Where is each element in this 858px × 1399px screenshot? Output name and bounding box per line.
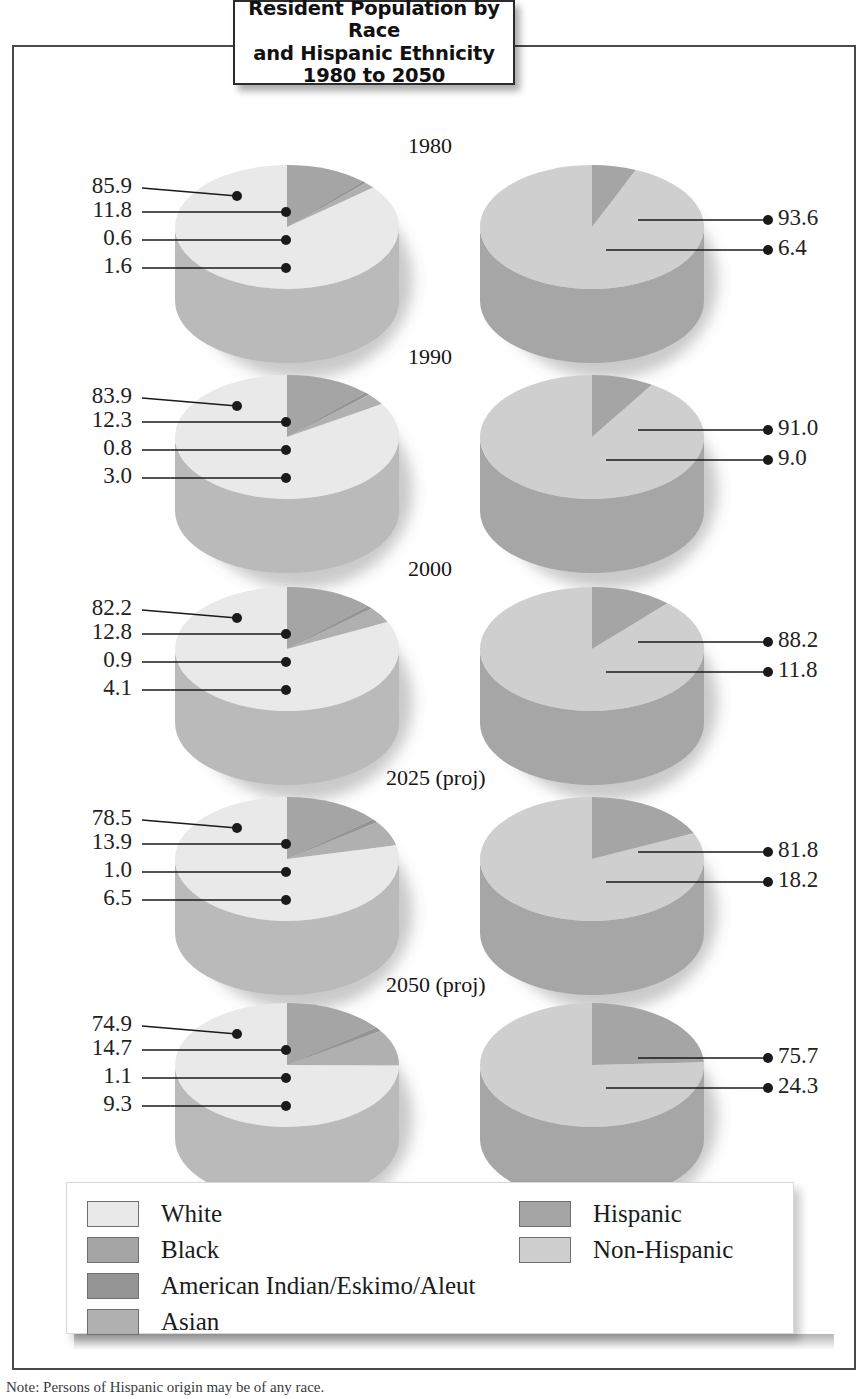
race-leader-1-1 — [138, 182, 247, 204]
legend-item-left-2: Black — [87, 1233, 476, 1267]
ethnicity-leader-2-1 — [634, 424, 778, 438]
race-leader-3-3 — [138, 656, 296, 670]
race-value-label-1-2: 11.8 — [42, 197, 132, 223]
legend-label-left-3: American Indian/Eskimo/Aleut — [161, 1273, 476, 1299]
race-value-label-3-4: 4.1 — [42, 675, 132, 701]
race-leader-2-4 — [138, 472, 296, 486]
ethnicity-value-label-1-1: 93.6 — [778, 205, 818, 231]
race-value-label-5-2: 14.7 — [42, 1035, 132, 1061]
race-leader-2-2 — [138, 416, 296, 430]
legend-column-ethnicity: HispanicNon-Hispanic — [519, 1197, 733, 1269]
legend-swatch-right-1 — [519, 1201, 571, 1227]
race-leader-5-1 — [138, 1020, 247, 1042]
legend-swatch-left-2 — [87, 1237, 139, 1263]
ethnicity-value-label-2-2: 9.0 — [778, 445, 807, 471]
race-value-label-2-1: 83.9 — [42, 383, 132, 409]
legend-item-left-4: Asian — [87, 1305, 476, 1339]
ethnicity-leader-1-1 — [634, 214, 778, 228]
ethnicity-value-label-3-1: 88.2 — [778, 627, 818, 653]
footnote: Note: Persons of Hispanic origin may be … — [6, 1379, 324, 1396]
chart-legend: WhiteBlackAmerican Indian/Eskimo/AleutAs… — [66, 1182, 794, 1334]
race-leader-3-1 — [138, 604, 247, 626]
ethnicity-value-label-3-2: 11.8 — [778, 657, 817, 683]
race-value-label-4-1: 78.5 — [42, 805, 132, 831]
race-value-label-1-3: 0.6 — [42, 225, 132, 251]
ethnicity-value-label-2-1: 91.0 — [778, 415, 818, 441]
chart-title-card: Resident Population by Race and Hispanic… — [233, 0, 515, 85]
race-value-label-3-1: 82.2 — [42, 595, 132, 621]
race-value-label-4-4: 6.5 — [42, 885, 132, 911]
legend-swatch-left-3 — [87, 1273, 139, 1299]
legend-swatch-left-4 — [87, 1309, 139, 1335]
legend-label-left-4: Asian — [161, 1309, 219, 1335]
pie-ethnicity-1 — [460, 150, 724, 378]
legend-label-left-2: Black — [161, 1237, 219, 1263]
ethnicity-leader-3-1 — [634, 636, 778, 650]
legend-label-right-2: Non-Hispanic — [593, 1237, 733, 1263]
legend-item-right-2: Non-Hispanic — [519, 1233, 733, 1267]
year-label-4: 2025 (proj) — [386, 765, 486, 791]
legend-item-left-3: American Indian/Eskimo/Aleut — [87, 1269, 476, 1303]
legend-label-left-1: White — [161, 1201, 222, 1227]
ethnicity-value-label-1-2: 6.4 — [778, 235, 807, 261]
race-leader-4-3 — [138, 866, 296, 880]
race-leader-2-3 — [138, 444, 296, 458]
ethnicity-leader-2-2 — [602, 454, 778, 468]
ethnicity-value-label-4-1: 81.8 — [778, 837, 818, 863]
title-line-3: 1980 to 2050 — [303, 64, 445, 87]
ethnicity-value-label-4-2: 18.2 — [778, 867, 818, 893]
ethnicity-leader-3-2 — [602, 666, 778, 680]
race-value-label-3-3: 0.9 — [42, 647, 132, 673]
year-label-1: 1980 — [408, 133, 452, 159]
ethnicity-leader-4-1 — [634, 846, 778, 860]
race-value-label-3-2: 12.8 — [42, 619, 132, 645]
ethnicity-leader-1-2 — [602, 244, 778, 258]
legend-item-left-1: White — [87, 1197, 476, 1231]
title-line-1: Resident Population by Race — [248, 0, 499, 42]
legend-swatch-right-2 — [519, 1237, 571, 1263]
race-value-label-1-1: 85.9 — [42, 173, 132, 199]
pie-ethnicity-2 — [460, 360, 724, 588]
race-leader-3-2 — [138, 628, 296, 642]
race-leader-3-4 — [138, 684, 296, 698]
race-value-label-5-3: 1.1 — [42, 1063, 132, 1089]
ethnicity-leader-4-2 — [602, 876, 778, 890]
race-value-label-4-2: 13.9 — [42, 829, 132, 855]
race-value-label-5-1: 74.9 — [42, 1011, 132, 1037]
chart-page: Resident Population by Race and Hispanic… — [0, 0, 858, 1399]
race-leader-1-3 — [138, 234, 296, 248]
race-value-label-2-3: 0.8 — [42, 435, 132, 461]
race-value-label-1-4: 1.6 — [42, 253, 132, 279]
race-leader-4-1 — [138, 814, 247, 836]
ethnicity-value-label-5-2: 24.3 — [778, 1073, 818, 1099]
race-leader-1-4 — [138, 262, 296, 276]
page-title: Resident Population by Race and Hispanic… — [235, 0, 513, 88]
race-leader-5-2 — [138, 1044, 296, 1058]
ethnicity-leader-5-2 — [602, 1082, 778, 1096]
race-value-label-5-4: 9.3 — [42, 1091, 132, 1117]
legend-swatch-left-1 — [87, 1201, 139, 1227]
year-label-3: 2000 — [408, 556, 452, 582]
legend-column-race: WhiteBlackAmerican Indian/Eskimo/AleutAs… — [87, 1197, 476, 1341]
race-leader-5-4 — [138, 1100, 296, 1114]
race-leader-2-1 — [138, 392, 247, 414]
race-value-label-2-2: 12.3 — [42, 407, 132, 433]
title-line-2: and Hispanic Ethnicity — [253, 42, 494, 65]
ethnicity-value-label-5-1: 75.7 — [778, 1043, 818, 1069]
race-value-label-2-4: 3.0 — [42, 463, 132, 489]
race-leader-4-2 — [138, 838, 296, 852]
year-label-2: 1990 — [408, 344, 452, 370]
year-label-5: 2050 (proj) — [386, 972, 486, 998]
legend-label-right-1: Hispanic — [593, 1201, 682, 1227]
race-leader-4-4 — [138, 894, 296, 908]
ethnicity-leader-5-1 — [634, 1052, 778, 1066]
race-leader-1-2 — [138, 206, 296, 220]
race-leader-5-3 — [138, 1072, 296, 1086]
pie-ethnicity-3 — [460, 572, 724, 800]
race-value-label-4-3: 1.0 — [42, 857, 132, 883]
legend-item-right-1: Hispanic — [519, 1197, 733, 1231]
pie-ethnicity-4 — [460, 782, 724, 1010]
